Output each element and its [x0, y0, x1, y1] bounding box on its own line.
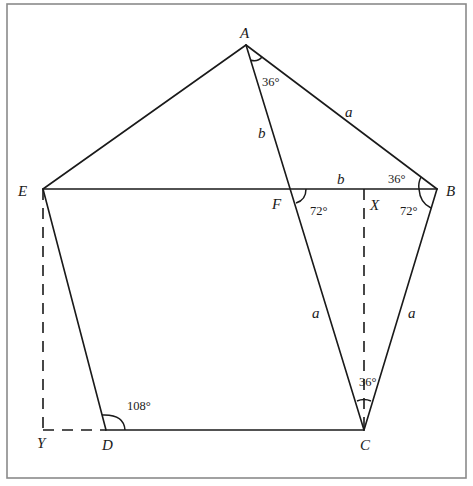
- pentagon-edges: [43, 45, 437, 430]
- vertex-label-C: C: [360, 437, 371, 453]
- angle-label: 36°: [359, 375, 377, 389]
- segment-EA: [43, 45, 246, 189]
- figure-frame: [7, 4, 466, 478]
- angle-label: 36°: [262, 75, 280, 89]
- vertex-label-X: X: [369, 197, 380, 213]
- angle-arc-A: [251, 57, 262, 61]
- vertex-label-D: D: [101, 437, 113, 453]
- angle-labels: 36°36°72°72°36°108°: [127, 75, 418, 413]
- angle-label: 72°: [310, 204, 328, 218]
- segment-AB: [246, 45, 437, 189]
- side-label: b: [337, 171, 345, 187]
- segment-DE: [43, 189, 106, 430]
- side-label: a: [312, 305, 320, 321]
- vertex-label-B: B: [446, 183, 455, 199]
- angle-label: 108°: [127, 399, 151, 413]
- side-label: a: [345, 104, 353, 120]
- vertex-label-A: A: [239, 25, 250, 41]
- side-labels: abbaa: [258, 104, 416, 321]
- vertex-label-F: F: [271, 196, 282, 212]
- side-label: b: [258, 125, 266, 141]
- segment-AC: [246, 45, 364, 430]
- side-label: a: [408, 305, 416, 321]
- angle-label: 72°: [400, 204, 418, 218]
- vertex-label-E: E: [17, 183, 27, 199]
- angle-arc-B-upper: [419, 177, 421, 189]
- vertex-labels: ABCDEFXY: [17, 25, 455, 453]
- segment-BC: [364, 189, 437, 430]
- angle-arc-F: [296, 189, 306, 203]
- angle-arc-B-lower: [419, 189, 431, 208]
- pentagon-diagram: ABCDEFXY abbaa 36°36°72°72°36°108°: [0, 0, 473, 486]
- vertex-label-Y: Y: [37, 435, 47, 451]
- angle-label: 36°: [388, 172, 406, 186]
